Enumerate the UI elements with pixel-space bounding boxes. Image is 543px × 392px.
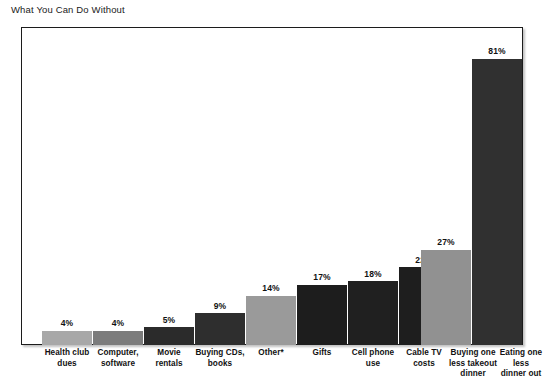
x-axis-label-line: costs	[396, 359, 452, 370]
x-axis-label-line: Computer,	[90, 348, 146, 359]
x-axis-label-line: Cable TV	[396, 348, 452, 359]
x-axis-labels: Health clubdues Computer,software Movier…	[21, 348, 523, 390]
x-axis-label-line: Health club	[39, 348, 95, 359]
x-axis-label-line: Eating one	[493, 348, 543, 359]
bar-chart-figure: What You Can Do Without 4% 4% 5% 9% 14% …	[0, 0, 543, 392]
x-axis-label: Gifts	[294, 348, 350, 359]
x-axis-label-line: dinner out	[493, 369, 543, 380]
x-axis-label-line: use	[345, 359, 401, 370]
bar-rect	[472, 59, 522, 345]
x-axis-label-line: less	[493, 359, 543, 370]
x-axis-label-line: Gifts	[294, 348, 350, 359]
bar-value-label: 81%	[472, 46, 522, 56]
bar-value-label: 5%	[144, 315, 194, 325]
x-axis-label-line: Buying CDs,	[192, 348, 248, 359]
x-axis-label: Health clubdues	[39, 348, 95, 369]
x-axis-label-line: Cell phone	[345, 348, 401, 359]
bar-value-label: 14%	[246, 283, 296, 293]
bar-rect	[144, 327, 194, 345]
bar-rect	[93, 331, 143, 345]
bar-rect	[42, 331, 92, 345]
bar-rect	[297, 285, 347, 345]
x-axis-label-line: dues	[39, 359, 95, 370]
x-axis-label-line: Movie	[141, 348, 197, 359]
x-axis-label: Buying CDs,books	[192, 348, 248, 369]
x-axis-label-line: books	[192, 359, 248, 370]
chart-title: What You Can Do Without	[11, 4, 125, 15]
x-axis-label: Other*	[243, 348, 299, 359]
x-axis-label-line: Other*	[243, 348, 299, 359]
x-axis-label: Eating onelessdinner out	[493, 348, 543, 380]
x-axis-label: Movierentals	[141, 348, 197, 369]
bar-rect	[348, 281, 398, 345]
x-axis-label: Computer,software	[90, 348, 146, 369]
bars-layer: 4% 4% 5% 9% 14% 17% 18% 22%	[21, 27, 523, 345]
x-axis-label: Cable TVcosts	[396, 348, 452, 369]
x-axis-label-line: rentals	[141, 359, 197, 370]
bar-value-label: 27%	[421, 237, 471, 247]
bar-value-label: 4%	[93, 318, 143, 328]
bar-value-label: 17%	[297, 272, 347, 282]
x-axis-label: Cell phoneuse	[345, 348, 401, 369]
bar-value-label: 4%	[42, 318, 92, 328]
bar-value-label: 9%	[195, 301, 245, 311]
x-axis-label-line: software	[90, 359, 146, 370]
bar-rect	[246, 296, 296, 346]
bar-rect	[195, 313, 245, 345]
bar-value-label: 18%	[348, 269, 398, 279]
bar-rect	[421, 250, 471, 345]
